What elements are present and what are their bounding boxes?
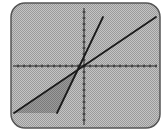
graph-screen [0, 0, 165, 133]
